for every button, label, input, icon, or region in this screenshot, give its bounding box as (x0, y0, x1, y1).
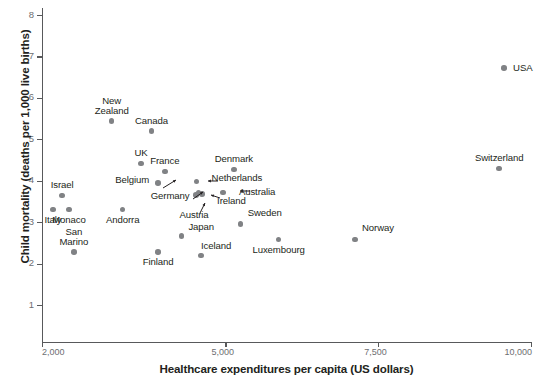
label-leader-lines (0, 0, 544, 371)
scatter-chart: 12345678 2,0005,0007,50010,000 ItalyMona… (0, 0, 544, 371)
